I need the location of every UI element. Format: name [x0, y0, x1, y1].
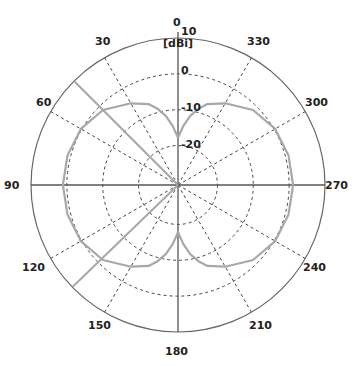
angle-label-240: 240 — [303, 261, 326, 274]
angle-label-0: 0 — [173, 16, 181, 29]
polar-antenna-pattern-chart: [dBi] 10 0306090120150180210240270300330… — [0, 0, 356, 366]
beam-marker-upper — [75, 82, 178, 185]
angle-label-210: 210 — [249, 319, 272, 332]
angle-label-180: 180 — [165, 345, 188, 358]
grid-spoke — [178, 185, 252, 312]
angle-label-60: 60 — [36, 96, 52, 109]
ring-label-0: 0 — [181, 64, 189, 77]
ring-label--10: -10 — [181, 101, 201, 114]
polar-axes — [31, 32, 325, 332]
angle-label-270: 270 — [325, 179, 348, 192]
angle-label-330: 330 — [247, 35, 270, 48]
angle-label-90: 90 — [4, 179, 20, 192]
angle-label-300: 300 — [305, 96, 328, 109]
beam-marker-lower — [73, 185, 178, 286]
grid-spoke — [178, 185, 305, 259]
angle-label-30: 30 — [95, 35, 111, 48]
top-ring-label: 10 — [181, 25, 197, 38]
angle-label-150: 150 — [88, 319, 111, 332]
grid-spoke — [105, 185, 179, 312]
angle-label-120: 120 — [22, 261, 45, 274]
unit-label: [dBi] — [163, 37, 193, 50]
grid-spoke — [178, 58, 252, 185]
ring-label--20: -20 — [181, 138, 201, 151]
